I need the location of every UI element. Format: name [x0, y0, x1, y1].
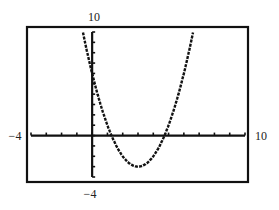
parabola-curve	[83, 32, 193, 166]
viewing-window-frame	[27, 27, 248, 182]
curve-path	[83, 32, 193, 166]
xmin-label: −4	[9, 129, 22, 143]
xmax-label: 10	[255, 129, 267, 143]
ymin-label: −4	[84, 187, 97, 201]
ymax-label: 10	[88, 10, 100, 24]
graphing-calculator-screen: 10 −4 −4 10	[0, 0, 279, 210]
axes	[31, 32, 245, 177]
